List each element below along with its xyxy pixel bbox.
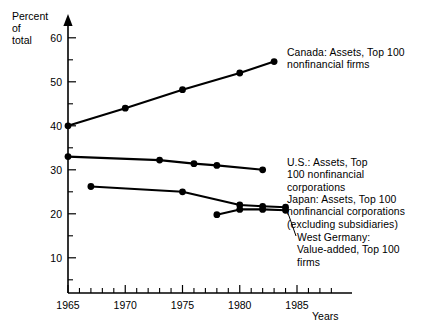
- series-data-point: [259, 206, 266, 213]
- series-data-point: [213, 162, 220, 169]
- data-series-group: [65, 58, 289, 218]
- series-data-point: [191, 160, 198, 167]
- y-tick-label: 20: [50, 208, 62, 220]
- x-tick-label: 1975: [171, 299, 195, 311]
- series-line: [91, 187, 286, 208]
- series-data-point: [271, 58, 278, 65]
- y-axis-title: Percent of total: [12, 10, 48, 47]
- series-label-japan: Japan: Assets, Top 100 nonfinancial corp…: [287, 194, 422, 231]
- series-label-us: U.S.: Assets, Top 100 nonfinancial corpo…: [287, 157, 407, 194]
- data-series: [65, 153, 266, 173]
- x-tick-label: 1985: [285, 299, 309, 311]
- series-line: [217, 209, 286, 214]
- y-axis-arrowhead: [63, 14, 72, 26]
- series-data-point: [65, 122, 72, 129]
- data-series: [65, 58, 278, 129]
- data-series: [88, 183, 289, 210]
- series-data-point: [156, 157, 163, 164]
- y-tick-label: 60: [50, 32, 62, 44]
- series-data-point: [259, 166, 266, 173]
- series-data-point: [122, 105, 129, 112]
- x-tick-label: 1965: [56, 299, 80, 311]
- series-data-point: [179, 86, 186, 93]
- series-data-point: [213, 211, 220, 218]
- series-line: [68, 62, 274, 126]
- series-data-point: [65, 153, 72, 160]
- y-axis: 102030405060: [50, 14, 76, 293]
- y-tick-label: 50: [50, 76, 62, 88]
- series-data-point: [179, 188, 186, 195]
- x-axis-title: Years: [312, 310, 338, 322]
- y-axis-tick-labels: 102030405060: [50, 32, 62, 264]
- series-label-west-germany: West Germany: Value-added, Top 100 firms: [297, 232, 422, 269]
- series-data-point: [236, 70, 243, 77]
- series-label-canada: Canada: Assets, Top 100 nonfinancial fir…: [287, 47, 422, 72]
- y-tick-label: 30: [50, 164, 62, 176]
- x-axis-ticks: [68, 285, 331, 293]
- x-axis: 19651970197519801985 Years: [56, 285, 352, 322]
- series-line: [68, 157, 263, 170]
- series-data-point: [236, 206, 243, 213]
- chart-figure: Percent of total 102030405060 1965197019…: [0, 0, 425, 333]
- y-tick-label: 40: [50, 120, 62, 132]
- y-tick-label: 10: [50, 252, 62, 264]
- x-tick-label: 1970: [114, 299, 138, 311]
- x-tick-label: 1980: [228, 299, 252, 311]
- series-data-point: [88, 183, 95, 190]
- x-axis-tick-labels: 19651970197519801985: [56, 299, 309, 311]
